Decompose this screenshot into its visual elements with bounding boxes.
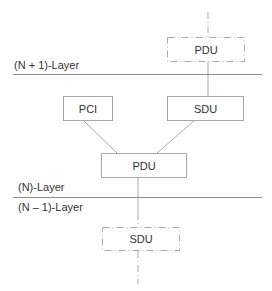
sdu-node: SDU [167,96,244,121]
connector-pci-to-pdu [83,120,117,153]
layer-label-n-minus-1: (N – 1)-Layer [18,201,83,213]
layer-label-n: (N)-Layer [18,181,64,193]
pci-label: PCI [79,103,97,115]
mid-pdu-node: PDU [101,153,187,178]
top-pdu-label: PDU [194,44,217,56]
mid-pdu-label: PDU [132,160,155,172]
bottom-sdu-node: SDU [103,228,179,250]
pci-node: PCI [63,96,113,121]
bottom-sdu-label: SDU [129,233,152,245]
layer-label-n-plus-1: (N + 1)-Layer [14,59,79,71]
sdu-label: SDU [194,103,217,115]
connector-sdu-to-pdu [157,120,195,153]
top-pdu-node: PDU [168,38,244,61]
diagram-canvas: PDU (N + 1)-Layer PCI SDU PDU (N)-Layer … [0,0,272,291]
